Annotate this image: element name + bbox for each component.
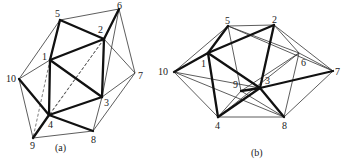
- figure-b-caption: (b): [251, 147, 263, 159]
- figure-b-thick-edges: [174, 25, 333, 117]
- vertex-label-a-7: 7: [138, 70, 143, 81]
- vertex-label-a-4: 4: [48, 119, 53, 130]
- vertex-label-b-4: 4: [215, 120, 220, 131]
- vertex-label-b-2: 2: [272, 14, 277, 25]
- vertex-label-b-3: 3: [265, 75, 270, 86]
- vertex-label-b-10: 10: [158, 66, 168, 77]
- vertex-label-a-2: 2: [98, 24, 103, 35]
- figure-a: 5 6 2 1 10 7 3 4 9 8 (a): [6, 0, 143, 154]
- figure-b-thin-edges: [174, 25, 333, 117]
- vertex-label-b-1: 1: [201, 58, 206, 69]
- figure-b-vertex-labels: 5 2 1 6 10 7 9 3 4 8: [158, 14, 340, 131]
- vertex-label-a-10: 10: [6, 73, 16, 84]
- vertex-label-b-8: 8: [282, 120, 287, 131]
- vertex-label-b-5: 5: [225, 15, 230, 26]
- figure-a-caption: (a): [55, 142, 66, 154]
- vertex-label-a-9: 9: [30, 140, 35, 151]
- vertex-label-a-3: 3: [104, 97, 109, 108]
- vertex-label-a-5: 5: [55, 8, 60, 19]
- figure-a-thick-edges: [19, 9, 119, 138]
- vertex-label-a-8: 8: [91, 134, 96, 145]
- vertex-label-a-1: 1: [42, 51, 47, 62]
- figure-b: 5 2 1 6 10 7 9 3 4 8 (b): [158, 14, 340, 159]
- graph-figures: 5 6 2 1 10 7 3 4 9 8 (a): [0, 0, 348, 161]
- vertex-label-b-7: 7: [335, 66, 340, 77]
- vertex-label-a-6: 6: [117, 0, 122, 11]
- vertex-label-b-9: 9: [233, 79, 238, 90]
- vertex-label-b-6: 6: [301, 57, 306, 68]
